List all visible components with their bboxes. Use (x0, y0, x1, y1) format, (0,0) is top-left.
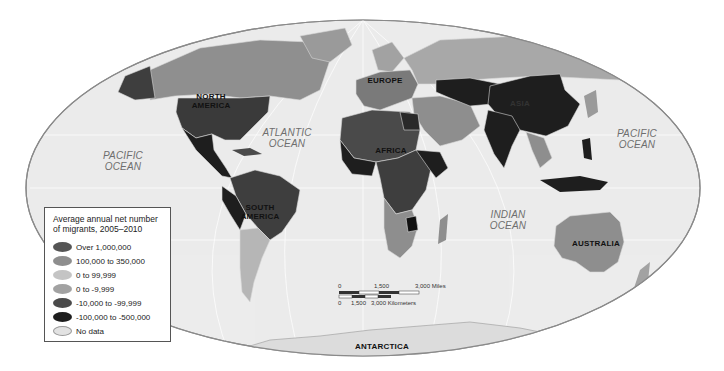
legend-swatch (53, 326, 72, 336)
pacific-ocean-east-label: PACIFICOCEAN (607, 128, 667, 150)
legend-item-neg-100000-to-neg-500000: -100,000 to -500,000 (53, 310, 164, 324)
map-legend: Average annual net number of migrants, 2… (44, 207, 171, 342)
legend-item-over-1000000: Over 1,000,000 (53, 240, 164, 254)
legend-swatch (53, 256, 72, 266)
legend-item-100000-to-350000: 100,000 to 350,000 (53, 254, 164, 268)
legend-item-0-to-99999: 0 to 99,999 (53, 268, 164, 282)
australia-label: AUSTRALIA (566, 239, 626, 248)
north-america-label: NORTHAMERICA (183, 92, 239, 110)
south-america-label: SOUTHAMERICA (232, 203, 288, 221)
scale-bar: 0 1,500 3,000 Miles 0 1,500 3,000 Kilome… (337, 283, 447, 313)
antarctica-label: ANTARCTICA (352, 342, 412, 351)
scale-miles-start: 0 (338, 283, 341, 289)
legend-item-no-data: No data (53, 324, 164, 338)
asia-label: ASIA (500, 99, 540, 108)
pacific-ocean-west-label: PACIFICOCEAN (93, 150, 153, 172)
world-migration-map: PACIFICOCEAN ATLANTICOCEAN INDIANOCEAN P… (0, 0, 724, 371)
russia-region (404, 36, 640, 84)
legend-swatch (53, 242, 72, 252)
legend-item-neg-10000-to-neg-99999: -10,000 to -99,999 (53, 296, 164, 310)
europe-label: EUROPE (365, 76, 405, 85)
scale-km-end: 3,000 Kilometers (371, 300, 416, 306)
scale-miles-mid: 1,500 (374, 283, 389, 289)
atlantic-ocean-label: ATLANTICOCEAN (252, 127, 322, 149)
scale-miles-end: 3,000 Miles (415, 283, 446, 289)
indian-ocean-label: INDIANOCEAN (478, 209, 538, 231)
legend-title: Average annual net number of migrants, 2… (53, 214, 164, 234)
legend-swatch (53, 284, 72, 294)
legend-swatch (53, 298, 72, 308)
legend-swatch (53, 270, 72, 280)
scale-km-start: 0 (338, 300, 341, 306)
scale-km-mid: 1,500 (351, 300, 366, 306)
africa-label: AFRICA (371, 146, 411, 155)
zimbabwe-region (406, 216, 418, 232)
legend-item-0-to-neg-9999: 0 to -9,999 (53, 282, 164, 296)
legend-swatch (53, 312, 72, 322)
